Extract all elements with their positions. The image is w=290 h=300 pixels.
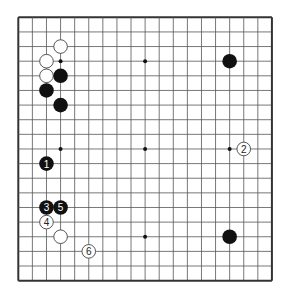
- stone-disc-icon: [53, 98, 68, 113]
- black-stone: [53, 69, 68, 84]
- stone-disc-icon: [54, 40, 68, 54]
- star-point-icon: [59, 147, 63, 151]
- move-number: 1: [44, 159, 50, 170]
- stone-disc-icon: [54, 230, 68, 244]
- stone-disc-icon: [222, 54, 237, 69]
- star-point-icon: [143, 147, 147, 151]
- stone-disc-icon: [53, 69, 68, 84]
- white-stone: 6: [82, 245, 96, 259]
- move-number: 3: [44, 202, 50, 213]
- white-stone: 4: [40, 215, 54, 229]
- stone-disc-icon: [40, 54, 54, 68]
- white-stone: 2: [237, 142, 251, 156]
- black-stone: [53, 98, 68, 113]
- stone-disc-icon: [40, 69, 54, 83]
- star-point-icon: [143, 59, 147, 63]
- move-number: 6: [86, 246, 92, 257]
- go-board: 123456: [0, 0, 290, 300]
- black-stone: [222, 54, 237, 69]
- black-stone: [39, 83, 54, 98]
- star-point-icon: [143, 235, 147, 239]
- star-point-icon: [228, 147, 232, 151]
- black-stone: 5: [53, 200, 68, 215]
- white-stone: [54, 230, 68, 244]
- star-point-icon: [59, 59, 63, 63]
- black-stone: 3: [39, 200, 54, 215]
- white-stone: [54, 40, 68, 54]
- white-stone: [40, 69, 54, 83]
- black-stone: 1: [39, 156, 54, 171]
- move-number: 2: [241, 144, 247, 155]
- stone-disc-icon: [39, 83, 54, 98]
- move-number: 4: [44, 217, 50, 228]
- black-stone: [222, 229, 237, 244]
- move-number: 5: [58, 202, 64, 213]
- stone-disc-icon: [222, 229, 237, 244]
- white-stone: [40, 54, 54, 68]
